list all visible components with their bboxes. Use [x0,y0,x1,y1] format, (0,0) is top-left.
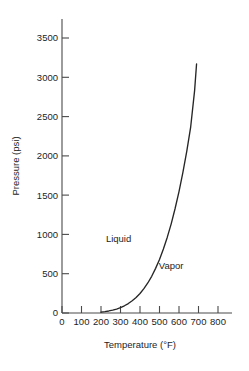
y-tick-label-3000: 3000 [37,72,58,83]
y-tick-label-1500: 1500 [37,190,58,201]
x-tick-label-800: 800 [210,316,226,327]
x-tick-label-300: 300 [113,316,129,327]
x-tick-label-600: 600 [171,316,187,327]
region-label-liquid: Liquid [106,233,131,244]
x-tick-label-700: 700 [191,316,207,327]
chart-svg: 0 500 1000 1500 2000 2500 3000 3500 0 10… [0,0,249,371]
x-axis-tick-labels: 0 100 200 300 400 500 600 700 800 [59,316,226,327]
y-tick-label-3500: 3500 [37,32,58,43]
x-tick-label-400: 400 [132,316,148,327]
x-tick-label-0: 0 [59,316,64,327]
y-tick-label-2000: 2000 [37,150,58,161]
region-label-vapor: Vapor [159,260,184,271]
y-tick-label-1000: 1000 [37,229,58,240]
x-tick-label-200: 200 [93,316,109,327]
y-tick-label-2500: 2500 [37,111,58,122]
x-axis-title: Temperature (°F) [104,339,176,350]
x-tick-label-100: 100 [74,316,90,327]
y-tick-label-500: 500 [42,268,58,279]
x-tick-label-500: 500 [152,316,168,327]
pressure-temperature-phase-diagram: 0 500 1000 1500 2000 2500 3000 3500 0 10… [0,0,249,371]
y-axis-title: Pressure (psi) [10,136,21,195]
y-tick-label-0: 0 [53,307,58,318]
